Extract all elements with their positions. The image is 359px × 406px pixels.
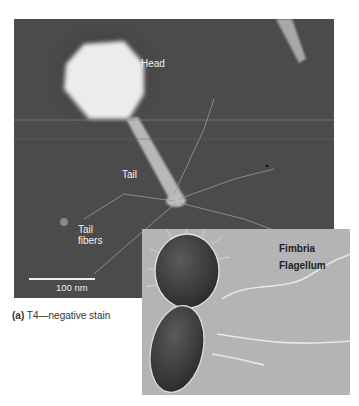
figure-caption: (a) T4—negative stain — [12, 310, 110, 321]
inset-graphic — [142, 229, 350, 395]
label-tail: Tail — [122, 169, 137, 180]
label-fimbria: Fimbria — [279, 243, 315, 254]
label-tail-fibers-line1: Tail — [78, 224, 93, 235]
scale-bar — [29, 278, 95, 280]
label-head: Head — [141, 58, 165, 69]
bacterium-micrograph-inset: Fimbria Flagellum — [142, 229, 350, 395]
label-tail-fibers-line2: fibers — [78, 235, 102, 246]
label-flagellum: Flagellum — [279, 260, 326, 271]
caption-text: T4—negative stain — [27, 310, 110, 321]
caption-letter: (a) — [12, 310, 24, 321]
scale-bar-label: 100 nm — [56, 282, 88, 293]
